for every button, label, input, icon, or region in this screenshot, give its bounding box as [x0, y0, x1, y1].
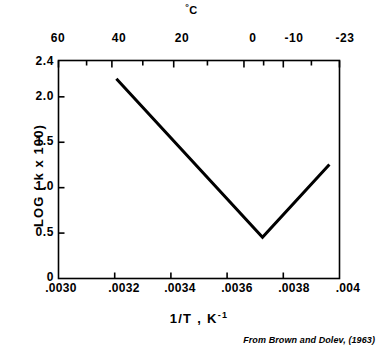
left-axis-ticks [59, 97, 65, 233]
plot-area [0, 0, 383, 352]
chart-figure: °C 60 40 20 0 -10 -23 2.4 2.0 1.5 1.0 0.… [0, 0, 383, 352]
top-axis-ticks [59, 61, 340, 68]
bottom-axis-ticks [115, 273, 284, 279]
data-series-line [116, 79, 329, 238]
